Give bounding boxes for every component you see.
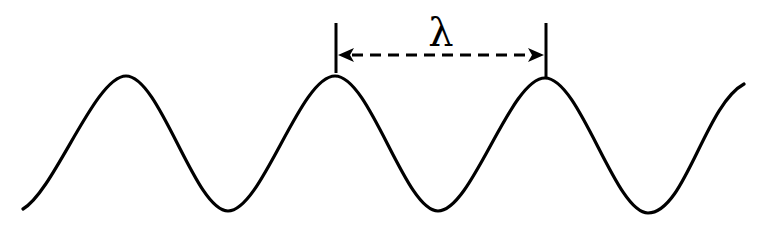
wave-curve xyxy=(23,76,744,213)
left-arrowhead-icon xyxy=(338,48,354,62)
right-arrowhead-icon xyxy=(528,48,544,62)
wave-diagram: λ xyxy=(0,0,771,235)
wavelength-label: λ xyxy=(428,9,453,55)
